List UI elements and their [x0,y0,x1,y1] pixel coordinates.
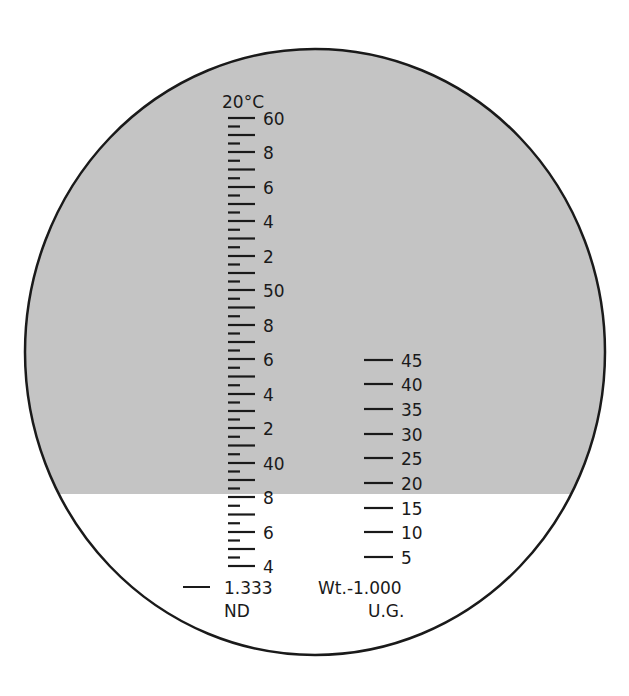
nd-reference-value: 1.333 [224,578,273,598]
left-scale-label: 4 [263,385,274,405]
right-scale-label: 30 [401,425,423,445]
left-scale-label: 8 [263,488,274,508]
refractometer-diagram: 20°C 60864250864240864 45403530252015105… [0,0,629,696]
left-scale-label: 8 [263,143,274,163]
right-scale-label: 45 [401,351,423,371]
field-of-view [0,0,629,696]
left-scale-label: 40 [263,454,285,474]
ug-reference-value: Wt.-1.000 [318,578,402,598]
left-scale-label: 6 [263,350,274,370]
left-scale-label: 50 [263,281,285,301]
left-scale-label: 2 [263,419,274,439]
right-scale-label: 5 [401,548,412,568]
left-scale-label: 8 [263,316,274,336]
temperature-label: 20°C [222,92,264,112]
right-scale-labels: 45403530252015105 [401,351,423,568]
right-scale-label: 15 [401,499,423,519]
right-scale-label: 20 [401,474,423,494]
right-scale-label: 25 [401,449,423,469]
nd-unit-label: ND [224,601,250,621]
left-scale-label: 60 [263,109,285,129]
right-scale-label: 35 [401,400,423,420]
left-scale-label: 4 [263,557,274,577]
shaded-region [0,0,629,494]
ug-unit-label: U.G. [368,601,404,621]
right-scale-label: 10 [401,523,423,543]
left-scale-label: 2 [263,247,274,267]
left-scale-label: 6 [263,178,274,198]
right-scale-label: 40 [401,375,423,395]
left-scale-label: 6 [263,523,274,543]
left-scale-label: 4 [263,212,274,232]
